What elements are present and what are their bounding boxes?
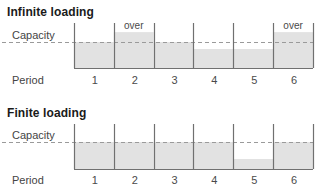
period-number-1: 1 xyxy=(92,174,98,186)
finite-loading-chart: 123456 xyxy=(2,124,314,186)
period-number-5: 5 xyxy=(251,74,257,86)
period-number-5: 5 xyxy=(251,174,257,186)
load-bar-period-6 xyxy=(273,142,313,169)
infinite-loading-chart: 123456overover xyxy=(2,20,314,86)
overload-annotation: over xyxy=(124,20,144,31)
load-bar-period-2 xyxy=(114,32,154,68)
period-number-4: 4 xyxy=(211,174,217,186)
load-bar-period-2 xyxy=(114,142,154,169)
period-number-6: 6 xyxy=(291,74,297,86)
load-bar-period-3 xyxy=(154,42,194,68)
period-number-2: 2 xyxy=(132,74,138,86)
load-bar-period-4 xyxy=(193,142,233,169)
load-bar-period-5 xyxy=(233,49,273,68)
loading-charts: 123456overover123456 xyxy=(0,0,319,194)
load-bar-period-5 xyxy=(233,159,273,169)
load-bar-period-1 xyxy=(74,142,114,169)
overload-annotation: over xyxy=(283,20,303,31)
period-number-2: 2 xyxy=(132,174,138,186)
period-number-3: 3 xyxy=(172,74,178,86)
load-bar-period-3 xyxy=(154,142,194,169)
period-number-6: 6 xyxy=(291,174,297,186)
load-bar-period-6 xyxy=(273,32,313,68)
load-bar-period-1 xyxy=(74,42,114,68)
period-number-4: 4 xyxy=(211,74,217,86)
period-number-3: 3 xyxy=(172,174,178,186)
load-bar-period-4 xyxy=(193,49,233,68)
period-number-1: 1 xyxy=(92,74,98,86)
